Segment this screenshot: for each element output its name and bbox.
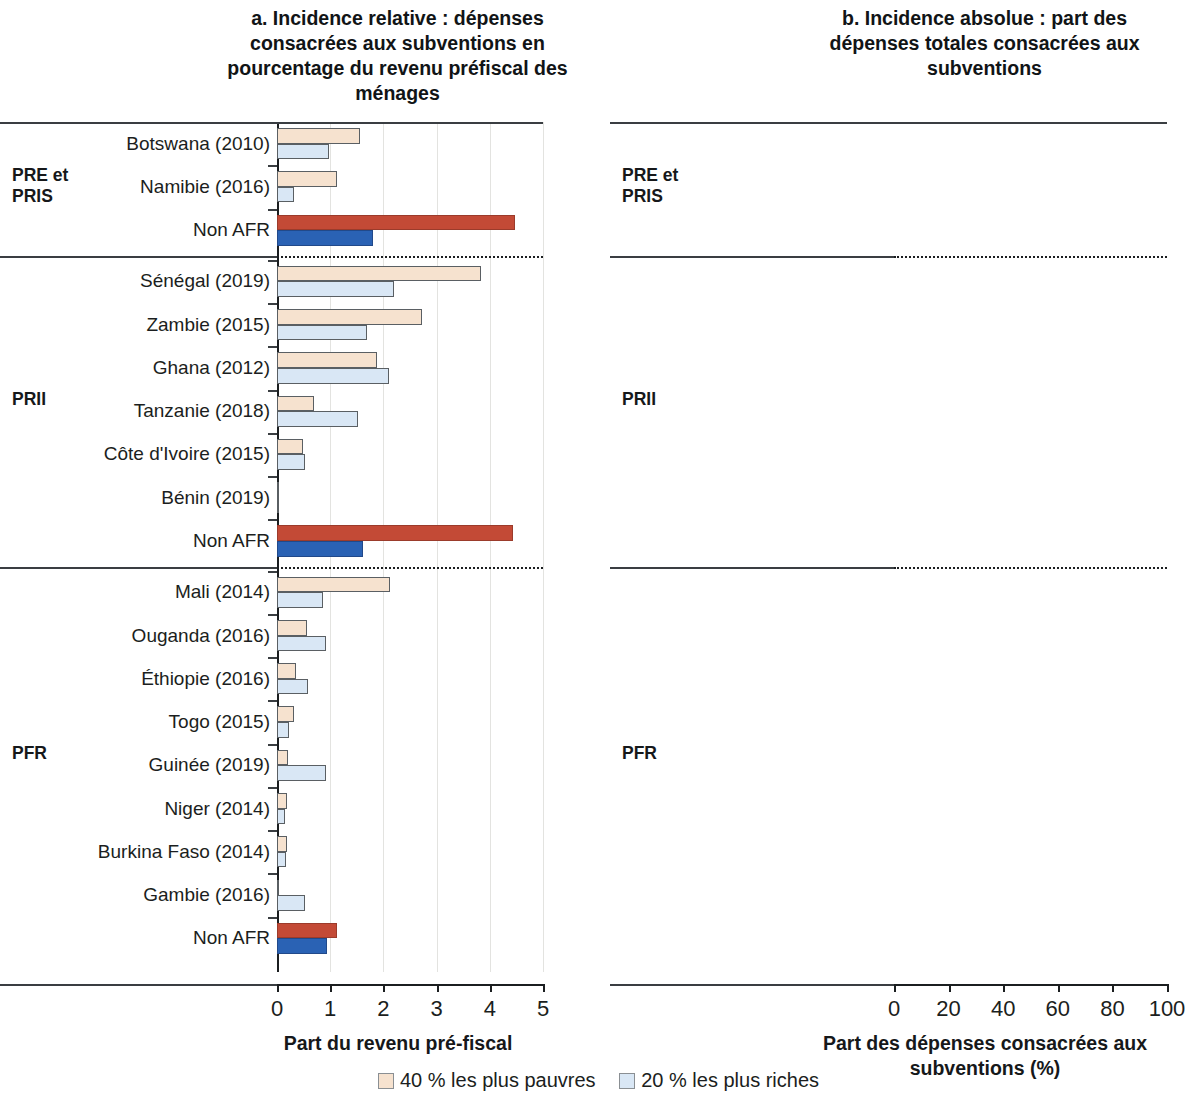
bar-rich-namibie-2016- [277,187,294,203]
row-label-non-afr: Non AFR [193,530,270,552]
bar-rich--thiopie-2016- [277,679,308,695]
bar-rich-non-afr [277,230,373,246]
table-row: Togo (2015) [277,700,543,743]
row-label-s-n-gal-2019-: Sénégal (2019) [140,270,270,292]
bar-rich-c-te-d-ivoire-2015- [277,454,305,470]
bar-rich-burkina-faso-2014- [277,852,286,868]
bar-rich-niger-2014- [277,809,285,825]
legend-label-poor: 40 % les plus pauvres [400,1069,596,1091]
panel-b-title: b. Incidence absolue : part des dépenses… [812,6,1157,81]
row-label-ghana-2012-: Ghana (2012) [153,357,270,379]
group-separator-dotted [277,256,543,258]
row-label-burkina-faso-2014-: Burkina Faso (2014) [98,841,270,863]
table-row: Guinée (2019) [277,744,543,787]
bar-poor-tanzanie-2018- [277,396,314,412]
row-label-guin-e-2019-: Guinée (2019) [149,754,270,776]
bar-poor-ghana-2012- [277,352,377,368]
y-tick-mark [268,657,277,659]
row-label--thiopie-2016-: Éthiopie (2016) [141,668,270,690]
panel-top-rule [0,122,543,124]
bar-poor-s-n-gal-2019- [277,266,481,282]
x-tick-5 [543,984,545,992]
x-axis-line [277,984,543,986]
bar-rich-botswana-2010- [277,144,329,160]
row-label-c-te-d-ivoire-2015-: Côte d'Ivoire (2015) [104,443,270,465]
bar-rich-guin-e-2019- [277,765,326,781]
row-label-ouganda-2016-: Ouganda (2016) [132,625,270,647]
y-tick-mark [268,260,277,262]
group-label-pfr: PFR [622,743,657,764]
bar-poor-non-afr [277,215,515,231]
y-tick-mark [268,519,277,521]
group-separator [610,256,894,258]
x-tick-100 [1167,984,1169,992]
legend-item-rich: 20 % les plus riches [619,1069,819,1092]
table-row: Bénin (2019) [277,476,543,519]
x-tick-label-80: 80 [1100,996,1124,1022]
panel-a-axis-title: Part du revenu pré-fiscal [178,1031,618,1056]
legend-swatch-poor-icon [378,1073,394,1089]
legend-item-poor: 40 % les plus pauvres [378,1069,596,1092]
y-tick-mark [268,614,277,616]
bar-poor--thiopie-2016- [277,663,296,679]
y-tick-mark [268,165,277,167]
legend-label-rich: 20 % les plus riches [641,1069,819,1091]
y-tick-mark [268,303,277,305]
row-label-b-nin-2019-: Bénin (2019) [161,487,270,509]
x-tick-label-60: 60 [1046,996,1070,1022]
group-separator [0,256,277,258]
x-tick-label-0: 0 [271,996,283,1022]
panel-bottom-rule [0,984,277,986]
group-separator-dotted [277,567,543,569]
x-tick-20 [949,984,951,992]
bar-poor-gambie-2016- [277,880,279,896]
figure-root: a. Incidence relative : dépenses consacr… [0,0,1197,1111]
bar-poor-non-afr [277,525,513,541]
bar-rich-s-n-gal-2019- [277,281,394,297]
x-tick-label-2: 2 [377,996,389,1022]
y-tick-mark [268,830,277,832]
bar-rich-non-afr [277,938,327,954]
panel-a-plot-area: Botswana (2010)Namibie (2016)Non AFRSéné… [277,122,543,972]
panel-top-rule [610,122,1167,124]
x-tick-label-0: 0 [888,996,900,1022]
row-label-mali-2014-: Mali (2014) [175,581,270,603]
row-label-non-afr: Non AFR [193,927,270,949]
table-row: Éthiopie (2016) [277,657,543,700]
table-row: Ouganda (2016) [277,614,543,657]
x-tick-label-100: 100 [1149,996,1186,1022]
x-tick-label-1: 1 [324,996,336,1022]
x-tick-2 [383,984,385,992]
bar-rich-mali-2014- [277,592,323,608]
table-row: Tanzanie (2018) [277,390,543,433]
bar-rich-non-afr [277,541,363,557]
bar-poor-zambie-2015- [277,309,422,325]
legend: 40 % les plus pauvres 20 % les plus rich… [0,1068,1197,1092]
table-row: Non AFR [277,209,543,252]
group-label-prii: PRII [12,389,46,410]
bar-rich-ghana-2012- [277,368,389,384]
panel-a-title: a. Incidence relative : dépenses consacr… [205,6,590,106]
legend-swatch-rich-icon [619,1073,635,1089]
panel-bottom-rule [610,984,894,986]
gridline-5 [543,122,544,972]
row-label-tanzanie-2018-: Tanzanie (2018) [134,400,270,422]
bar-poor-botswana-2010- [277,128,360,144]
x-axis-line [894,984,1167,986]
row-label-niger-2014-: Niger (2014) [164,798,270,820]
row-label-zambie-2015-: Zambie (2015) [146,314,270,336]
group-label-prii: PRII [622,389,656,410]
table-row: Non AFR [277,519,543,562]
y-tick-mark [268,433,277,435]
table-row: Burkina Faso (2014) [277,830,543,873]
table-row: Zambie (2015) [277,303,543,346]
bar-poor-non-afr [277,923,337,939]
group-label-pfr: PFR [12,743,47,764]
group-separator-dotted [894,256,1167,258]
panel-a-relative-incidence: Botswana (2010)Namibie (2016)Non AFRSéné… [0,122,560,992]
x-tick-80 [1112,984,1114,992]
bar-poor-b-nin-2019- [277,482,279,498]
table-row: Côte d'Ivoire (2015) [277,433,543,476]
table-row: Mali (2014) [277,571,543,614]
table-row: Gambie (2016) [277,873,543,916]
